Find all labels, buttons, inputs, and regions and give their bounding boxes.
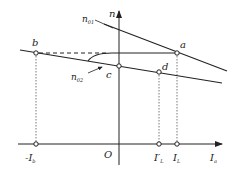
label-point-b: b — [32, 37, 38, 48]
tick-label-il: IL — [172, 152, 181, 164]
label-n02: n02 — [71, 72, 83, 83]
tick-label-neg-ib: -Ib — [25, 152, 36, 164]
tick-neg-ib — [34, 142, 38, 146]
tick-label-il-prime: I′L — [153, 152, 164, 164]
x-axis-label: Ia — [209, 152, 217, 164]
label-point-c: c — [106, 69, 112, 80]
y-axis-label: n — [109, 8, 115, 19]
tick-il-prime — [157, 142, 161, 146]
label-n01: n01 — [82, 14, 94, 25]
pointer-n02 — [88, 67, 102, 73]
label-point-a: a — [180, 39, 186, 50]
tick-il — [175, 142, 179, 146]
point-a — [175, 51, 179, 55]
point-b — [34, 51, 38, 55]
motor-characteristic-diagram: n O Ia a b c d n01 n02 -Ib I′L IL — [0, 0, 241, 171]
point-d — [157, 70, 161, 74]
pointer-n01 — [95, 20, 113, 28]
label-point-d: d — [162, 61, 168, 72]
origin-label: O — [104, 149, 112, 160]
transition-path — [88, 53, 177, 61]
point-c — [117, 64, 121, 68]
diagram-canvas: n O Ia a b c d n01 n02 -Ib I′L IL — [0, 0, 241, 171]
